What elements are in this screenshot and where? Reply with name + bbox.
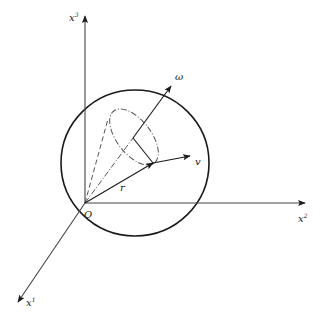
- x2-label: x2: [298, 212, 308, 224]
- cone-edge-line-2: [85, 150, 122, 203]
- x3-label: x3: [69, 11, 79, 23]
- x1-label: x1: [26, 296, 35, 308]
- perpendicular-segment: [133, 138, 153, 163]
- omega-label: ω: [175, 71, 183, 82]
- omega-axis-dashdot: [85, 138, 133, 203]
- r-vector: [85, 163, 153, 203]
- r-label: r: [120, 182, 126, 193]
- diagram-canvas: x3 x2 x1 O r v ω: [0, 0, 320, 318]
- origin-label: O: [84, 209, 92, 220]
- x1-axis: [18, 203, 85, 302]
- v-label: v: [195, 156, 201, 167]
- v-vector: [153, 156, 190, 163]
- diagram-svg: x3 x2 x1 O r v ω: [0, 0, 320, 318]
- cone-edge-line: [85, 119, 108, 203]
- omega-vector: [133, 86, 171, 138]
